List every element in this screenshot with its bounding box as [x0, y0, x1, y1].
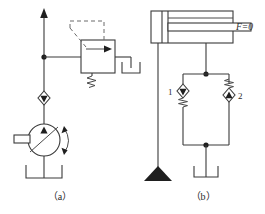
schematic-canvas: （a） F=0: [0, 0, 265, 214]
pump-rotation-arrow-icon: [62, 126, 69, 155]
check-valve-one-icon: [177, 84, 189, 107]
valve-one-label: 1: [168, 87, 173, 97]
pilot-line-dashed: [70, 21, 104, 40]
caption-b: （b）: [191, 191, 216, 202]
caption-a: （a）: [48, 191, 72, 202]
force-label: F=0: [235, 22, 253, 32]
relief-valve-spring-icon: [87, 73, 96, 88]
pilot-line-diagonal: [70, 28, 86, 47]
check-valve-icon: [38, 91, 50, 105]
circuit-b-group: F=0 1: [144, 11, 253, 202]
valve-two-label: 2: [238, 91, 243, 101]
circuit-a-group: （a）: [14, 8, 140, 202]
pump-drive-rect: [14, 135, 30, 143]
arrow-up-icon: [40, 8, 48, 18]
relief-valve-body: [81, 40, 115, 73]
drain-triangle-icon: [144, 166, 172, 181]
hydraulic-schematic-figure: （a） F=0: [0, 0, 265, 214]
